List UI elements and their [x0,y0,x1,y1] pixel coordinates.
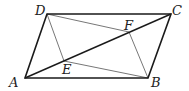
segment-DE [47,14,64,61]
geometry-diagram: A B C D E F [0,0,189,91]
diagonal-AC [25,14,171,78]
segment-EB [64,61,148,78]
label-D: D [35,4,45,17]
label-F: F [124,19,133,32]
label-C: C [172,4,182,17]
label-B: B [151,76,161,89]
segment-FB [129,32,148,78]
label-A: A [9,76,18,89]
segment-DF [47,14,129,32]
label-E: E [62,63,72,76]
